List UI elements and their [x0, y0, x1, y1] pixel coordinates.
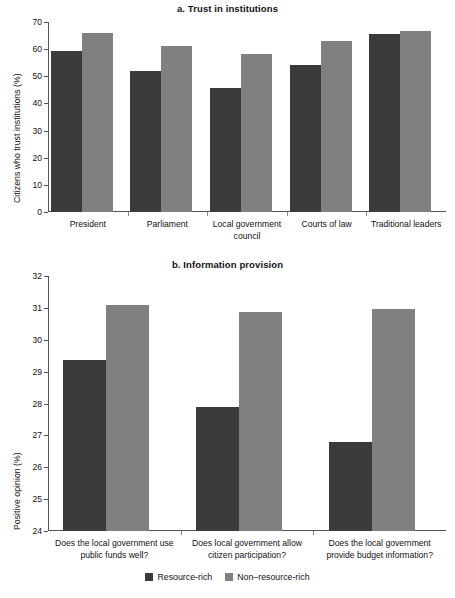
y-tick-label: 10	[32, 180, 42, 190]
y-tick-label: 30	[32, 126, 42, 136]
bar-resource-rich	[369, 34, 400, 212]
chart-a-title: a. Trust in institutions	[0, 3, 455, 14]
bar-resource-rich	[63, 360, 106, 531]
y-tick-label: 26	[32, 462, 42, 472]
bar-group	[48, 22, 128, 212]
y-tick-label: 25	[32, 494, 42, 504]
bar-group	[287, 22, 367, 212]
y-tick-label: 31	[32, 303, 42, 313]
bar-group	[207, 22, 287, 212]
x-axis-category-label: Does the local government use public fun…	[48, 538, 181, 561]
x-axis-category-label: Traditional leaders	[366, 219, 446, 231]
y-tick-label: 60	[32, 44, 42, 54]
bar-group	[128, 22, 208, 212]
bar-group	[181, 276, 314, 531]
bar-non-resource-rich	[321, 41, 352, 212]
legend-swatch-icon	[225, 573, 233, 581]
chart-panel-a: a. Trust in institutions Citizens who tr…	[0, 0, 455, 252]
chart-b-title: b. Information provision	[0, 259, 455, 270]
y-tick-label: 27	[32, 430, 42, 440]
chart-a-y-axis-label: Citizens who trust institutions (%)	[12, 73, 22, 203]
y-tick-label: 40	[32, 98, 42, 108]
bar-group	[48, 276, 181, 531]
legend-label: Resource-rich	[157, 572, 212, 582]
bar-non-resource-rich	[106, 305, 149, 531]
bar-group	[366, 22, 446, 212]
bar-group	[313, 276, 446, 531]
bar-non-resource-rich	[239, 312, 282, 531]
x-axis-separator	[313, 531, 314, 535]
x-axis-separator	[181, 531, 182, 535]
x-axis-separator	[287, 212, 288, 216]
y-tick-mark	[44, 212, 48, 213]
legend-swatch-icon	[145, 573, 153, 581]
x-axis-separator	[366, 212, 367, 216]
x-axis-separator	[207, 212, 208, 216]
bar-resource-rich	[329, 442, 372, 531]
bar-resource-rich	[290, 65, 321, 212]
y-tick-label: 28	[32, 399, 42, 409]
legend-item-non-resource-rich: Non–resource-rich	[225, 572, 309, 582]
x-axis-category-label: Local government council	[207, 219, 287, 242]
bar-resource-rich	[130, 71, 161, 212]
legend-label: Non–resource-rich	[237, 572, 309, 582]
x-axis-category-label: Does the local government provide budget…	[313, 538, 446, 561]
bar-resource-rich	[196, 407, 239, 531]
y-tick-label: 0	[37, 207, 42, 217]
y-tick-label: 70	[32, 17, 42, 27]
chart-b-y-axis-label: Positive opinion (%)	[12, 452, 22, 530]
y-tick-label: 30	[32, 335, 42, 345]
chart-panel-b: b. Information provision Positive opinio…	[0, 252, 455, 598]
chart-b-plot-area: 242526272829303132Does the local governm…	[48, 276, 446, 531]
x-axis-category-label: Courts of law	[287, 219, 367, 231]
y-tick-label: 24	[32, 526, 42, 536]
bar-resource-rich	[51, 51, 82, 213]
y-tick-label: 20	[32, 153, 42, 163]
bar-non-resource-rich	[372, 309, 415, 531]
bar-non-resource-rich	[161, 46, 192, 212]
x-axis-separator	[128, 212, 129, 216]
bar-resource-rich	[210, 88, 241, 212]
figure-root: a. Trust in institutions Citizens who tr…	[0, 0, 455, 598]
y-tick-label: 32	[32, 271, 42, 281]
x-axis-category-label: Does local government allow citizen part…	[181, 538, 314, 561]
y-tick-label: 50	[32, 71, 42, 81]
y-tick-label: 29	[32, 367, 42, 377]
bar-non-resource-rich	[241, 54, 272, 212]
bar-non-resource-rich	[400, 31, 431, 212]
bar-non-resource-rich	[82, 33, 113, 212]
legend-item-resource-rich: Resource-rich	[145, 572, 212, 582]
x-axis-category-label: President	[48, 219, 128, 231]
y-tick-mark	[44, 531, 48, 532]
x-axis-category-label: Parliament	[128, 219, 208, 231]
chart-a-plot-area: 010203040506070PresidentParliamentLocal …	[48, 22, 446, 212]
chart-legend: Resource-richNon–resource-rich	[0, 572, 455, 582]
